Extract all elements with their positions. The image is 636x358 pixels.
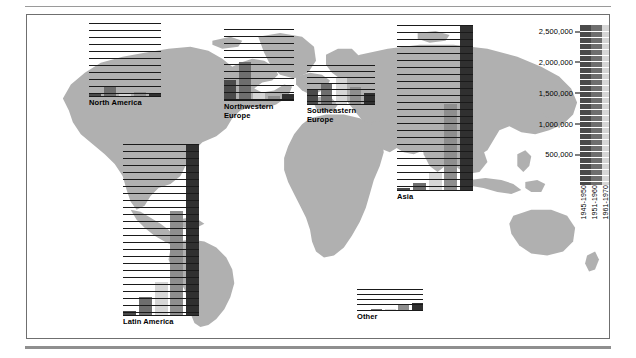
bar-1961-1970 xyxy=(253,92,265,101)
bar-1981-1989 xyxy=(149,93,161,97)
bar-1961-1970 xyxy=(385,309,396,311)
bar-1945-1950 xyxy=(89,94,101,97)
chart-north-america: North America xyxy=(89,23,161,97)
axis-tick-1500000: 1,500,000 xyxy=(539,88,580,97)
bar-1981-1989 xyxy=(460,25,473,191)
chart-southeastern-europe: Southeastern Europe xyxy=(307,65,375,105)
chart-label-northwestern-europe: Northwestern Europe xyxy=(224,102,274,120)
bar-1961-1970 xyxy=(429,173,442,191)
bar-1971-1980 xyxy=(134,92,146,97)
bar-1951-1960 xyxy=(413,183,426,191)
period-label-1951-1960: 1951-1960 xyxy=(591,185,602,219)
chart-label-southeastern-europe: Southeastern Europe xyxy=(307,106,356,124)
bar-group xyxy=(357,289,423,311)
chart-label-north-america: North America xyxy=(89,98,142,107)
bar-group xyxy=(307,65,375,105)
bar-1971-1980 xyxy=(170,211,183,316)
bar-1951-1960 xyxy=(139,297,152,316)
bar-1945-1950 xyxy=(123,311,136,316)
bar-1981-1989 xyxy=(282,94,294,101)
bar-1971-1980 xyxy=(398,305,409,311)
figure-page: North America xyxy=(0,0,636,358)
bar-1945-1950 xyxy=(357,310,368,311)
axis-tick-2500000: 2,500,000 xyxy=(539,27,580,36)
scale-legend: 2,500,000 2,000,000 1,500,000 1,000,000 … xyxy=(580,25,610,185)
legend-swatch-1945-1950 xyxy=(580,25,591,185)
bottom-rule xyxy=(25,346,611,349)
bar-1951-1960 xyxy=(371,309,382,311)
axis-tick-1000000: 1,000,000 xyxy=(539,119,580,128)
bar-1961-1970 xyxy=(336,78,347,105)
bar-1951-1960 xyxy=(321,84,332,105)
chart-latin-america: Latin America xyxy=(123,141,199,316)
bar-1981-1989 xyxy=(186,145,199,317)
bar-1981-1989 xyxy=(412,303,423,311)
bar-group xyxy=(123,141,199,316)
chart-asia: Asia xyxy=(397,23,473,191)
top-rule xyxy=(25,6,611,7)
axis-tick-2000000: 2,000,000 xyxy=(539,57,580,66)
axis-tick-500000: 500,000 xyxy=(545,150,580,159)
bar-1971-1980 xyxy=(268,96,280,101)
bar-1951-1960 xyxy=(239,62,251,101)
chart-label-asia: Asia xyxy=(397,192,413,201)
bar-1961-1970 xyxy=(119,93,131,97)
legend-axis: 2,500,000 2,000,000 1,500,000 1,000,000 … xyxy=(510,25,580,185)
bar-1961-1970 xyxy=(155,282,168,316)
chart-label-latin-america: Latin America xyxy=(123,317,174,326)
bar-1971-1980 xyxy=(444,104,457,191)
legend-period-labels: 1945-1950 1951-1960 1961-1970 1971-1980 … xyxy=(580,185,610,219)
legend-swatch-1961-1970 xyxy=(602,25,610,185)
chart-label-other: Other xyxy=(357,312,378,321)
period-label-1945-1950: 1945-1950 xyxy=(580,185,591,219)
figure-frame: North America xyxy=(26,14,610,339)
bar-group xyxy=(89,23,161,97)
chart-northwestern-europe: Northwestern Europe xyxy=(224,29,294,101)
bar-1971-1980 xyxy=(350,87,361,105)
bar-1945-1950 xyxy=(307,89,318,105)
period-label-1961-1970: 1961-1970 xyxy=(602,185,610,219)
legend-swatch-1951-1960 xyxy=(591,25,602,185)
bar-1945-1950 xyxy=(224,80,236,101)
bar-group xyxy=(224,29,294,101)
bar-1951-1960 xyxy=(104,87,116,97)
chart-other: Other xyxy=(357,289,423,311)
bar-1945-1950 xyxy=(397,188,410,191)
legend-swatches: 1945-1950 1951-1960 1961-1970 1971-1980 … xyxy=(580,25,610,185)
bar-group xyxy=(397,23,473,191)
bar-1981-1989 xyxy=(364,93,375,105)
